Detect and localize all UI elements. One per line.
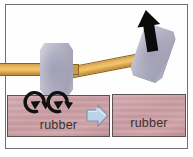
rubber-label-right: rubber <box>113 117 185 130</box>
rubber-label-left: rubber <box>8 119 109 132</box>
figure-root: rubber rubber <box>0 0 193 157</box>
rubber-block-left: rubber <box>7 95 110 137</box>
rubber-block-right: rubber <box>112 94 186 137</box>
hammer-head-left <box>40 43 73 97</box>
